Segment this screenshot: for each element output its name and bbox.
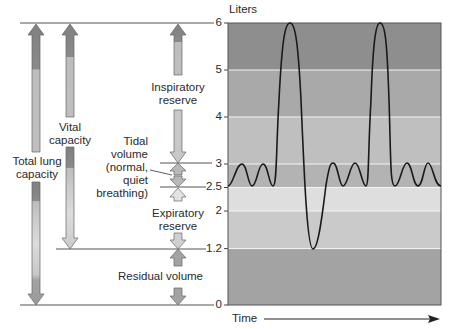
tick-3: 3 xyxy=(192,157,222,169)
time-arrow xyxy=(264,315,440,323)
tick-5: 5 xyxy=(192,63,222,75)
band-2.5-2 xyxy=(228,188,441,212)
total-lung-capacity-label: Total lung capacity xyxy=(6,155,68,181)
tick-0: 0 xyxy=(192,298,222,310)
tick-1-2: 1.2 xyxy=(192,242,222,254)
vital-capacity-label: Vital capacity xyxy=(48,121,92,147)
band-1.2-0 xyxy=(228,249,441,305)
inspiratory-reserve-label: Inspiratory reserve xyxy=(148,81,208,107)
tick-2-5: 2.5 xyxy=(192,180,222,192)
tidal-volume-label: Tidal volume (normal, quiet breathing) xyxy=(96,135,148,200)
tick-6: 6 xyxy=(192,16,222,28)
tick-4: 4 xyxy=(192,110,222,122)
expiratory-reserve-label: Expiratory reserve xyxy=(148,207,208,233)
residual-volume-label: Residual volume xyxy=(118,270,203,283)
band-2-1.2 xyxy=(228,211,441,249)
band-4-3 xyxy=(228,117,441,164)
x-axis-label: Time xyxy=(232,312,257,325)
y-axis-ticks xyxy=(224,23,228,305)
band-6-5 xyxy=(228,23,441,70)
y-axis-label: Liters xyxy=(229,3,257,16)
band-5-4 xyxy=(228,70,441,117)
tidal-volume-arrows xyxy=(150,163,186,187)
